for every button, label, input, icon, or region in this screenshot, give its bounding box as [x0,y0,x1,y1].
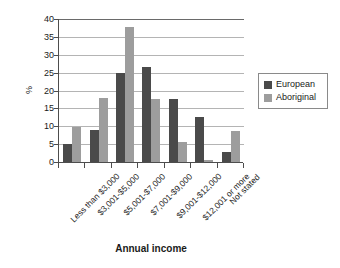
legend-swatch-icon [264,94,272,102]
x-axis-category-labels: Less than $3,000$3,001-$5,000$5,001-$7,0… [0,0,340,268]
y-axis-tick-mark [54,55,58,56]
x-axis-title: Annual income [58,243,244,254]
y-axis-tick-mark [54,126,58,127]
legend-label: Aboriginal [276,93,316,102]
chart-legend: European Aboriginal [258,73,328,109]
y-axis-tick-mark [54,73,58,74]
legend-swatch-icon [264,81,272,89]
y-axis-tick-mark [54,91,58,92]
y-axis-tick-mark [54,37,58,38]
y-axis-tick-mark [54,19,58,20]
legend-item-aboriginal: Aboriginal [264,91,323,104]
y-axis-tick-mark [54,162,58,163]
legend-label: European [276,80,315,89]
legend-item-european: European [264,78,323,91]
y-axis-tick-mark [54,144,58,145]
y-axis-tick-mark [54,108,58,109]
bar-chart: % 0510152025303540 Less than $3,000$3,00… [0,0,340,268]
